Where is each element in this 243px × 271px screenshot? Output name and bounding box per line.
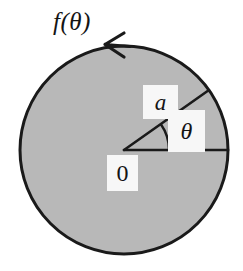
diagram-svg bbox=[0, 0, 243, 271]
angle-label: θ bbox=[168, 110, 205, 152]
boundary-function-label: f(θ) bbox=[53, 8, 91, 36]
figure-canvas: f(θ) a θ 0 bbox=[0, 0, 243, 271]
origin-label: 0 bbox=[107, 155, 138, 191]
